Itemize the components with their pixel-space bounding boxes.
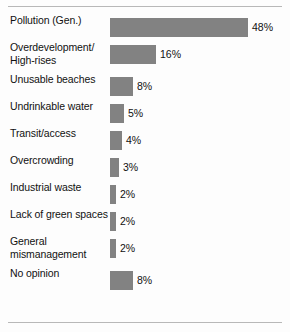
chart-rows: Pollution (Gen.)48%Overdevelopment/High-… — [0, 14, 290, 294]
bar-value-label: 2% — [120, 239, 135, 258]
chart-row: Transit/access4% — [0, 127, 290, 154]
chart-row: Overcrowding3% — [0, 154, 290, 181]
category-label: Overcrowding — [10, 154, 108, 167]
bar-area: 16% — [110, 41, 290, 73]
chart-row: Pollution (Gen.)48% — [0, 14, 290, 41]
bar — [110, 18, 248, 37]
category-label: Lack of green spaces — [10, 208, 108, 221]
bar-area: 2% — [110, 235, 290, 267]
bar-value-label: 5% — [128, 104, 143, 123]
bar-value-label: 48% — [252, 18, 273, 37]
category-label-line1: Transit/access — [10, 127, 76, 139]
category-label-line1: No opinion — [10, 267, 59, 279]
category-label-line2: High-rises — [10, 54, 108, 67]
bar-chart: Pollution (Gen.)48%Overdevelopment/High-… — [0, 0, 290, 332]
bottom-divider-rule — [8, 322, 282, 323]
top-divider-rule — [8, 6, 282, 7]
category-label-line1: Overdevelopment/ — [10, 41, 94, 53]
category-label-line2: mismanagement — [10, 248, 108, 261]
category-label-line1: Industrial waste — [10, 181, 81, 193]
bar — [110, 212, 116, 231]
category-label-line1: Overcrowding — [10, 154, 74, 166]
bar — [110, 131, 122, 150]
chart-row: Unusable beaches8% — [0, 73, 290, 100]
category-label-line1: Unusable beaches — [10, 73, 95, 85]
bar-value-label: 16% — [160, 45, 181, 64]
bar-value-label: 8% — [137, 271, 152, 290]
bar — [110, 185, 116, 204]
bar-area: 3% — [110, 154, 290, 181]
chart-row: Overdevelopment/High-rises16% — [0, 41, 290, 73]
bar-area: 5% — [110, 100, 290, 127]
chart-row: Undrinkable water5% — [0, 100, 290, 127]
bar — [110, 104, 124, 123]
category-label-line1: Lack of green spaces — [10, 208, 108, 220]
category-label: Pollution (Gen.) — [10, 14, 108, 27]
bar — [110, 158, 119, 177]
category-label-line1: General — [10, 235, 47, 247]
bar-value-label: 2% — [120, 185, 135, 204]
category-label: Generalmismanagement — [10, 235, 108, 260]
bar-area: 8% — [110, 73, 290, 100]
clipped-title — [10, 0, 160, 5]
bar-area: 48% — [110, 14, 290, 41]
bar-area: 8% — [110, 267, 290, 294]
bar-value-label: 4% — [126, 131, 141, 150]
bar — [110, 271, 133, 290]
category-label: Industrial waste — [10, 181, 108, 194]
category-label-line1: Pollution (Gen.) — [10, 14, 81, 26]
bar — [110, 239, 116, 258]
chart-row: Lack of green spaces2% — [0, 208, 290, 235]
chart-row: Industrial waste2% — [0, 181, 290, 208]
category-label: Undrinkable water — [10, 100, 108, 113]
bar-area: 2% — [110, 208, 290, 235]
category-label: Unusable beaches — [10, 73, 108, 86]
category-label: No opinion — [10, 267, 108, 280]
category-label: Overdevelopment/High-rises — [10, 41, 108, 66]
chart-row: No opinion8% — [0, 267, 290, 294]
bar-value-label: 3% — [123, 158, 138, 177]
bar-area: 2% — [110, 181, 290, 208]
category-label-line1: Undrinkable water — [10, 100, 93, 112]
bar-value-label: 8% — [137, 77, 152, 96]
chart-row: Generalmismanagement2% — [0, 235, 290, 267]
bar-value-label: 2% — [120, 212, 135, 231]
bar — [110, 77, 133, 96]
category-label: Transit/access — [10, 127, 108, 140]
bar — [110, 45, 156, 64]
bar-area: 4% — [110, 127, 290, 154]
